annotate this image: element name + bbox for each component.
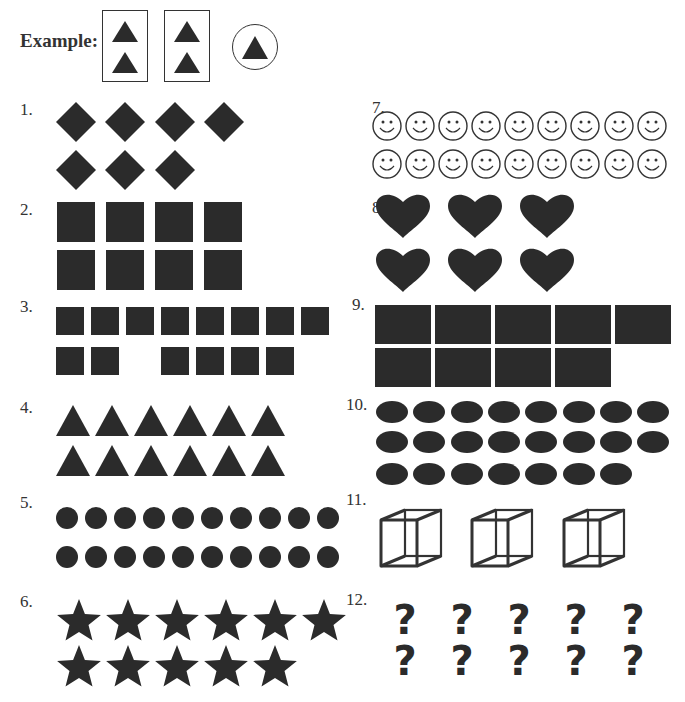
circle-icon bbox=[201, 546, 223, 568]
circle-icon bbox=[114, 546, 136, 568]
square-icon bbox=[155, 250, 193, 290]
oval-icon bbox=[600, 401, 632, 423]
question-mark-icon: ? bbox=[450, 597, 473, 643]
oval-icon bbox=[488, 401, 520, 423]
oval-icon bbox=[413, 463, 445, 485]
rectangle-icon bbox=[555, 305, 611, 344]
oval-icon bbox=[451, 431, 483, 453]
square-icon bbox=[204, 202, 242, 242]
oval-icon bbox=[563, 463, 595, 485]
rectangle-icon bbox=[435, 348, 491, 387]
problem-2-square-group bbox=[57, 202, 242, 290]
rectangle-icon bbox=[495, 348, 551, 387]
question-mark-icon: ? bbox=[621, 638, 644, 684]
problem-8-heart-group bbox=[376, 195, 574, 292]
small-square-icon bbox=[266, 347, 294, 375]
rectangle-icon bbox=[495, 305, 551, 344]
smiley-face-icon bbox=[538, 150, 566, 178]
heart-icon bbox=[376, 195, 430, 238]
rectangle-icon bbox=[375, 348, 431, 387]
oval-icon bbox=[563, 431, 595, 453]
smiley-face-icon bbox=[505, 150, 533, 178]
problem-12-question-mark-group: ?????????? bbox=[393, 597, 644, 684]
svg-text:?: ? bbox=[450, 597, 473, 643]
question-mark-icon: ? bbox=[564, 638, 587, 684]
small-square-icon bbox=[126, 307, 154, 335]
oval-icon bbox=[525, 431, 557, 453]
oval-icon bbox=[637, 431, 669, 453]
rectangle-icon bbox=[615, 305, 671, 344]
square-icon bbox=[106, 250, 144, 290]
svg-text:?: ? bbox=[393, 638, 416, 684]
smiley-face-icon bbox=[373, 112, 401, 140]
smiley-face-icon bbox=[439, 150, 467, 178]
oval-icon bbox=[376, 431, 408, 453]
heart-icon bbox=[520, 195, 574, 238]
triangle-icon bbox=[251, 445, 285, 476]
triangle-icon bbox=[56, 445, 90, 476]
star-icon bbox=[155, 599, 199, 641]
oval-icon bbox=[376, 401, 408, 423]
problem-10-oval-group bbox=[376, 401, 669, 485]
oval-icon bbox=[413, 431, 445, 453]
triangle-icon bbox=[134, 405, 168, 436]
rectangle-icon bbox=[555, 348, 611, 387]
circle-icon bbox=[172, 546, 194, 568]
wireframe-cube-icon bbox=[564, 510, 624, 566]
oval-icon bbox=[525, 401, 557, 423]
small-square-icon bbox=[266, 307, 294, 335]
smiley-face-icon bbox=[439, 112, 467, 140]
circle-icon bbox=[259, 546, 281, 568]
oval-icon bbox=[376, 463, 408, 485]
oval-icon bbox=[563, 401, 595, 423]
question-mark-icon: ? bbox=[450, 638, 473, 684]
problem-7-smiley-face-group bbox=[373, 112, 666, 178]
triangle-icon bbox=[56, 405, 90, 436]
triangle-icon bbox=[251, 405, 285, 436]
problem-3-small-square-group bbox=[56, 307, 329, 375]
diamond-icon bbox=[105, 102, 145, 142]
diamond-icon bbox=[155, 150, 195, 190]
oval-icon bbox=[413, 401, 445, 423]
oval-icon bbox=[451, 401, 483, 423]
smiley-face-icon bbox=[605, 150, 633, 178]
smiley-face-icon bbox=[605, 112, 633, 140]
smiley-face-icon bbox=[472, 112, 500, 140]
circle-icon bbox=[143, 546, 165, 568]
smiley-face-icon bbox=[472, 150, 500, 178]
oval-icon bbox=[637, 401, 669, 423]
triangle-icon bbox=[212, 405, 246, 436]
small-square-icon bbox=[231, 347, 259, 375]
circle-icon bbox=[172, 507, 194, 529]
smiley-face-icon bbox=[505, 112, 533, 140]
svg-text:?: ? bbox=[564, 597, 587, 643]
question-mark-icon: ? bbox=[621, 597, 644, 643]
question-mark-icon: ? bbox=[393, 597, 416, 643]
circle-icon bbox=[259, 507, 281, 529]
circle-icon bbox=[230, 507, 252, 529]
star-icon bbox=[57, 599, 101, 641]
wireframe-cube-icon bbox=[381, 510, 441, 566]
triangle-icon bbox=[134, 445, 168, 476]
star-icon bbox=[253, 645, 297, 687]
svg-text:?: ? bbox=[507, 597, 530, 643]
problem-6-star-group bbox=[57, 599, 346, 687]
star-icon bbox=[106, 645, 150, 687]
problem-9-rectangle-group bbox=[375, 305, 671, 387]
diamond-icon bbox=[105, 150, 145, 190]
oval-icon bbox=[488, 463, 520, 485]
small-square-icon bbox=[56, 347, 84, 375]
square-icon bbox=[204, 250, 242, 290]
circle-icon bbox=[85, 507, 107, 529]
star-icon bbox=[106, 599, 150, 641]
problem-11-wireframe-cube-group bbox=[381, 510, 624, 566]
question-mark-icon: ? bbox=[564, 597, 587, 643]
triangle-icon bbox=[212, 445, 246, 476]
small-square-icon bbox=[161, 347, 189, 375]
heart-icon bbox=[448, 195, 502, 238]
circle-icon bbox=[56, 507, 78, 529]
smiley-face-icon bbox=[406, 150, 434, 178]
small-square-icon bbox=[196, 347, 224, 375]
small-square-icon bbox=[231, 307, 259, 335]
triangle-icon bbox=[173, 405, 207, 436]
